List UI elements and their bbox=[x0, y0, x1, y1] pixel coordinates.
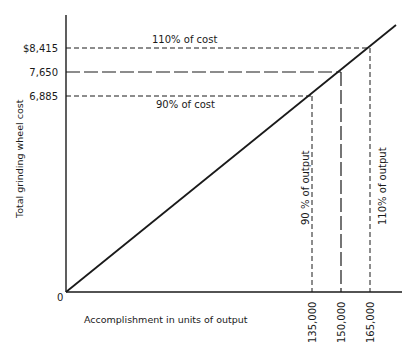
x-tick-150000: 150,000 bbox=[336, 302, 347, 343]
annotation-110-cost: 110% of cost bbox=[152, 34, 217, 45]
chart: $8,415 7,650 6,885 0 110% of cost 90% of… bbox=[0, 0, 413, 346]
y-tick-7650: 7,650 bbox=[29, 67, 58, 78]
cost-line bbox=[66, 25, 396, 292]
y-tick-8415: $8,415 bbox=[23, 43, 58, 54]
annotation-90-output: 90 % of output bbox=[300, 151, 311, 225]
annotation-90-cost: 90% of cost bbox=[156, 99, 215, 110]
x-tick-135000: 135,000 bbox=[307, 302, 318, 343]
origin-label: 0 bbox=[57, 292, 63, 303]
annotation-110-output: 110% of output bbox=[377, 147, 388, 225]
x-tick-165000: 165,000 bbox=[365, 302, 376, 343]
y-axis-title: Total grinding wheel cost bbox=[14, 99, 25, 219]
x-axis-title: Accomplishment in units of output bbox=[84, 314, 248, 325]
y-tick-6885: 6,885 bbox=[29, 91, 58, 102]
